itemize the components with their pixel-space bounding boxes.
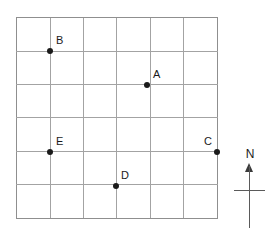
- north-arrow-icon: N: [232, 148, 268, 230]
- north-shaft: [249, 166, 250, 228]
- grid-line-horizontal: [16, 84, 218, 85]
- grid-line-horizontal: [16, 117, 218, 118]
- grid-line-vertical: [16, 17, 17, 219]
- map-point-b: [47, 48, 53, 54]
- north-label: N: [232, 148, 268, 160]
- map-point-label-d: D: [121, 170, 129, 181]
- map-point-label-b: B: [56, 35, 63, 46]
- grid-line-horizontal: [16, 17, 218, 18]
- map-point-e: [47, 149, 53, 155]
- grid-line-vertical: [217, 17, 218, 219]
- grid-map-figure: A B C D E N: [0, 0, 269, 236]
- map-point-a: [144, 82, 150, 88]
- map-point-label-c: C: [204, 136, 212, 147]
- map-point-label-a: A: [153, 69, 160, 80]
- north-crossbar: [234, 190, 265, 191]
- map-point-label-e: E: [56, 136, 63, 147]
- grid-line-vertical: [183, 17, 184, 219]
- map-point-c: [214, 149, 220, 155]
- grid-line-horizontal: [16, 218, 218, 219]
- grid-line-vertical: [150, 17, 151, 219]
- map-point-d: [113, 183, 119, 189]
- grid-line-vertical: [83, 17, 84, 219]
